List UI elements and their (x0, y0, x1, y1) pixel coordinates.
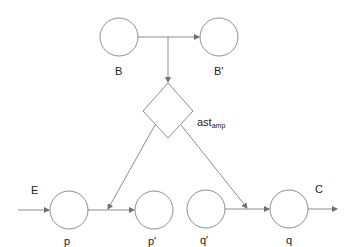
label-B-prime: B′ (214, 66, 223, 77)
label-transition: astamp (197, 117, 225, 129)
label-E: E (31, 185, 38, 196)
label-transition-main: ast (197, 116, 212, 128)
place-p-prime (135, 191, 173, 229)
place-B (100, 18, 138, 56)
label-p: p (64, 236, 70, 247)
place-q (270, 190, 308, 228)
place-q-prime (187, 190, 225, 228)
label-q-prime: q′ (200, 235, 208, 246)
edge-transition-to-p-edge (108, 125, 155, 209)
edge-transition-to-q-edge (181, 125, 247, 208)
label-p-prime: p′ (148, 236, 156, 247)
label-B: B (115, 66, 122, 77)
place-B-prime (200, 18, 238, 56)
place-p (50, 191, 88, 229)
label-q: q (286, 235, 292, 246)
label-C: C (315, 184, 323, 195)
label-transition-sub: amp (212, 122, 226, 129)
transition-ast-amp (143, 83, 193, 138)
